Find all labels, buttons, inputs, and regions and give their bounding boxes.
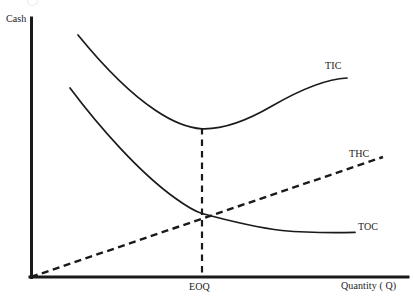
y-axis-label: Cash: [6, 13, 26, 24]
eoq-cost-chart: Cash TIC THC TOC EOQ Quantity ( Q): [0, 0, 414, 303]
x-axis-label: Quantity ( Q): [341, 280, 396, 291]
series-label-thc: THC: [349, 148, 369, 159]
tic-curve-path: [78, 35, 347, 129]
series-label-toc: TOC: [358, 221, 378, 232]
series-label-tic: TIC: [325, 60, 341, 71]
thc-line: [31, 157, 383, 277]
eoq-tick-label: EOQ: [189, 281, 210, 292]
toc-curve-path: [70, 88, 355, 233]
